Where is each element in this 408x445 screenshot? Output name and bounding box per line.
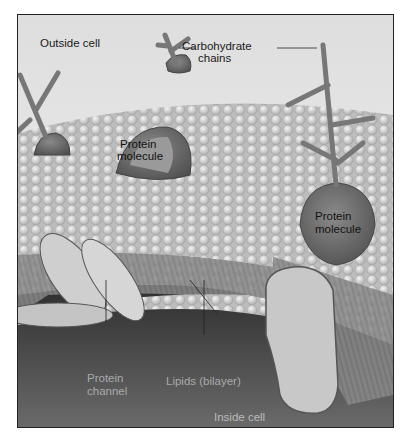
label-protein-channel-line1: Protein [87,372,123,384]
label-protein-channel-line2: channel [87,385,127,397]
label-protein-molecule-1-line1: Protein [120,138,156,150]
label-carbohydrate-chains-line1: Carbohydrate [182,40,252,52]
label-protein-molecule-2-line2: molecule [315,223,361,235]
label-lipids-bilayer: Lipids (bilayer) [166,375,241,387]
label-protein-molecule-1-line2: molecule [117,150,163,162]
label-carbohydrate-chains-line2: chains [198,52,231,64]
label-outside-cell: Outside cell [40,37,100,49]
label-protein-molecule-2-line1: Protein [315,210,351,222]
label-inside-cell: Inside cell [214,411,265,423]
